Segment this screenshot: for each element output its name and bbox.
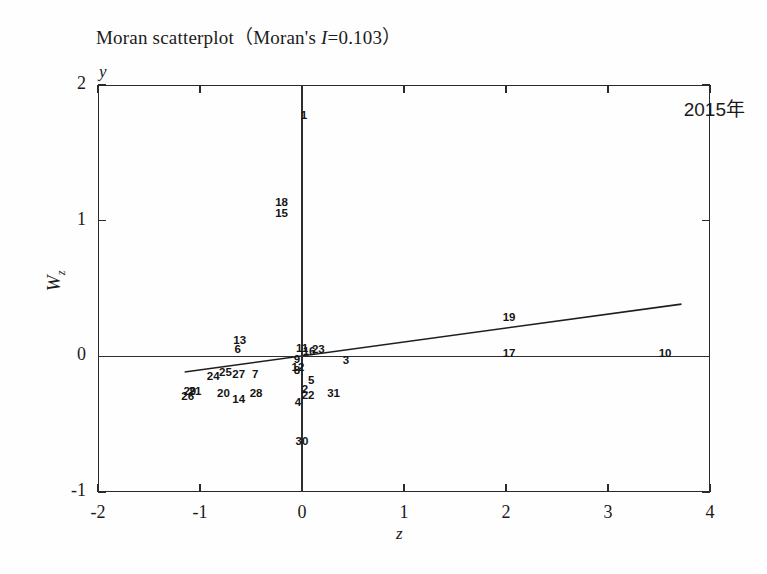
vertical-reference-line	[301, 85, 302, 492]
y-axis-tick-label: 2	[46, 73, 86, 94]
scatter-point-label: 17	[503, 349, 516, 361]
y-axis-corner-letter: y	[99, 62, 107, 82]
moran-scatterplot-figure: Moran scatterplot（Moran's I=0.103） y z W…	[0, 0, 767, 574]
scatter-point-label: 25	[219, 367, 232, 379]
scatter-point-label: 14	[232, 395, 245, 407]
x-axis-tick-label: -2	[78, 502, 118, 523]
scatter-point-label: 28	[250, 388, 263, 400]
y-axis-title: Wz	[43, 251, 69, 311]
chart-title: Moran scatterplot（Moran's I=0.103）	[96, 22, 401, 49]
y-axis-tick	[98, 84, 106, 85]
scatter-point-label: 3	[343, 355, 349, 367]
x-axis-tick-top	[505, 85, 506, 93]
y-axis-title-main: W	[43, 275, 64, 291]
y-axis-tick	[98, 220, 106, 221]
x-axis-tick-label: 0	[282, 502, 322, 523]
scatter-point-label: 23	[312, 344, 325, 356]
y-axis-tick-right	[702, 491, 710, 492]
x-axis-tick	[505, 484, 506, 492]
x-axis-tick-top	[709, 85, 710, 93]
x-axis-corner-letter: z	[396, 524, 403, 544]
plot-area	[98, 85, 710, 492]
x-axis-tick-label: 1	[384, 502, 424, 523]
x-axis-tick-top	[607, 85, 608, 93]
scatter-point-label: 30	[296, 437, 309, 449]
scatter-point-label: 1	[301, 110, 307, 122]
y-axis-tick-label: 0	[46, 344, 86, 365]
y-axis-tick-label: 1	[46, 209, 86, 230]
title-value: =0.103	[328, 27, 383, 48]
y-axis-tick-right	[702, 220, 710, 221]
x-axis-tick	[403, 484, 404, 492]
x-axis-tick-top	[199, 85, 200, 93]
scatter-point-label: 15	[275, 208, 288, 220]
x-axis-tick-label: 4	[690, 502, 730, 523]
scatter-point-label: 26	[181, 391, 194, 403]
x-axis-tick	[607, 484, 608, 492]
x-axis-tick-label: 3	[588, 502, 628, 523]
x-axis-tick-top	[403, 85, 404, 93]
title-open-paren: （	[234, 27, 253, 48]
x-axis-tick-label: 2	[486, 502, 526, 523]
scatter-point-label: 4	[295, 397, 301, 409]
year-annotation: 2015年	[684, 94, 745, 121]
title-close-paren: ）	[382, 27, 401, 48]
scatter-point-label: 24	[207, 372, 220, 384]
y-axis-tick-label: -1	[46, 480, 86, 501]
scatter-point-label: 27	[232, 369, 245, 381]
y-axis-tick-right	[702, 84, 710, 85]
scatter-point-label: 7	[252, 370, 258, 382]
scatter-point-label: 31	[327, 388, 340, 400]
scatter-point-label: 20	[217, 388, 230, 400]
title-moran-text: Moran's	[253, 27, 321, 48]
scatter-point-label: 8	[294, 366, 300, 378]
x-axis-tick	[199, 484, 200, 492]
horizontal-reference-line	[98, 356, 710, 357]
title-prefix: Moran scatterplot	[96, 27, 234, 48]
y-axis-title-subscript: z	[54, 271, 68, 276]
scatter-point-label: 19	[503, 312, 516, 324]
scatter-point-label: 6	[235, 344, 241, 356]
scatter-point-label: 22	[302, 390, 315, 402]
y-axis-tick	[98, 491, 106, 492]
x-axis-tick-label: -1	[180, 502, 220, 523]
scatter-point-label: 10	[659, 348, 672, 360]
scatter-point-label: 5	[308, 376, 314, 388]
x-axis-tick-top	[97, 85, 98, 93]
